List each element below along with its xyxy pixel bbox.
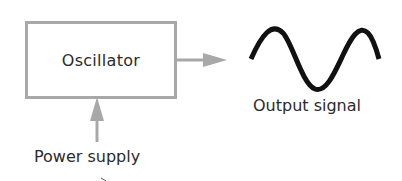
power-supply-label: Power supply: [34, 147, 140, 166]
sine-wave-icon: [251, 29, 379, 90]
output-signal-label: Output signal: [253, 96, 361, 115]
power-input-arrow: [90, 97, 104, 142]
output-arrow: [177, 53, 227, 67]
stray-mark: [101, 178, 106, 181]
